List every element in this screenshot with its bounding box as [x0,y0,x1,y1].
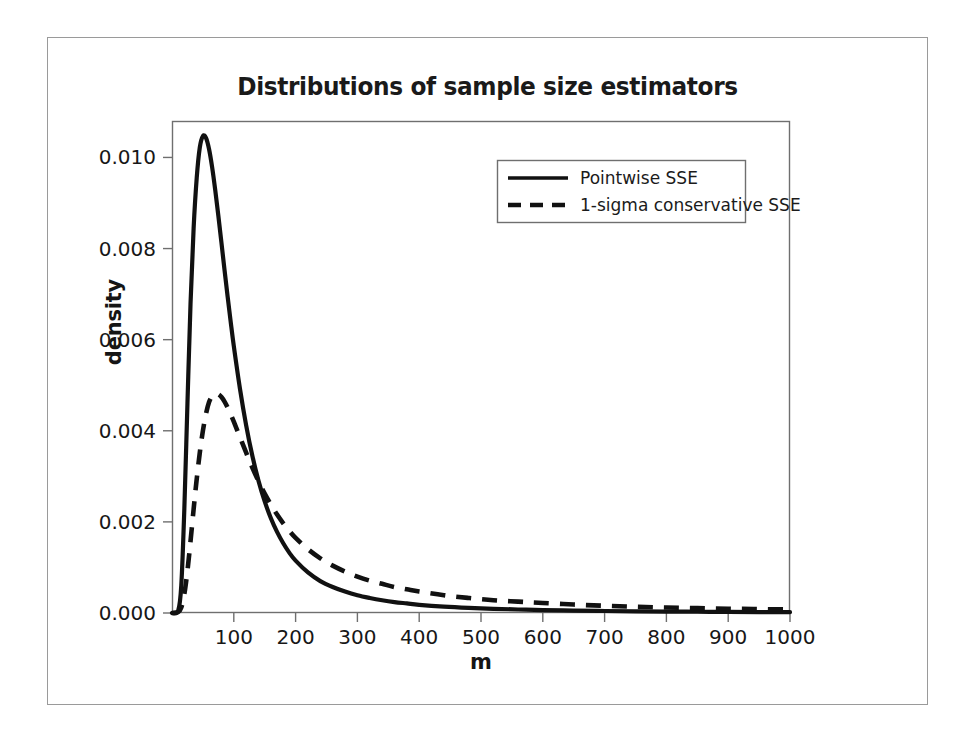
x-tick-label: 300 [338,625,376,649]
y-tick-label: 0.002 [99,510,156,534]
x-tick-label: 500 [462,625,500,649]
x-tick-label: 100 [215,625,253,649]
x-tick-label: 400 [400,625,438,649]
x-tick-label: 900 [709,625,747,649]
y-tick-label: 0.000 [99,601,156,625]
figure-root: Distributions of sample size estimators … [0,0,976,751]
legend: Pointwise SSE 1-sigma conservative SSE [498,161,801,223]
legend-label-pointwise-sse: Pointwise SSE [580,168,698,188]
x-tick-label: 200 [277,625,315,649]
x-axis-ticks: 1002003004005006007008009001000 [215,613,816,649]
x-tick-label: 800 [647,625,685,649]
y-tick-label: 0.006 [99,328,156,352]
plot-canvas: 0.0000.0020.0040.0060.0080.010 100200300… [0,0,976,751]
x-tick-label: 600 [524,625,562,649]
y-tick-label: 0.010 [99,145,156,169]
x-tick-label: 700 [586,625,624,649]
y-tick-label: 0.008 [99,237,156,261]
y-tick-label: 0.004 [99,419,156,443]
legend-label-1sigma-conservative-sse: 1-sigma conservative SSE [580,195,801,215]
x-tick-label: 1000 [765,625,816,649]
y-axis-ticks: 0.0000.0020.0040.0060.0080.010 [99,145,172,625]
